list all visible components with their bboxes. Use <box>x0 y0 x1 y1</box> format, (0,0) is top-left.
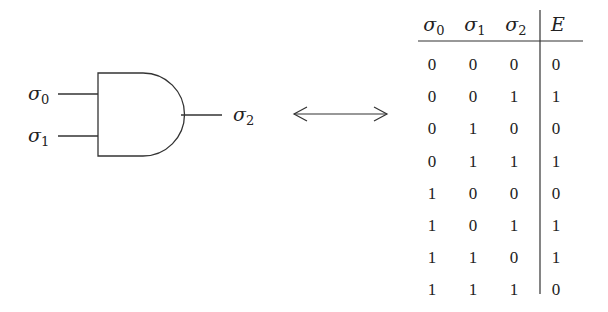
table-cell: 0 <box>417 87 447 107</box>
table-cell: 1 <box>417 280 447 300</box>
table-cell: 1 <box>499 216 529 236</box>
table-cell: 1 <box>541 216 571 236</box>
double-arrow-icon <box>294 107 387 121</box>
input-label-1: σ1 <box>28 124 49 149</box>
table-cell: 1 <box>417 248 447 268</box>
input-label-0: σ0 <box>28 82 49 107</box>
table-cell: 1 <box>458 152 488 172</box>
table-cell: 1 <box>458 248 488 268</box>
table-cell: 1 <box>499 280 529 300</box>
table-cell: 1 <box>499 87 529 107</box>
table-cell: 0 <box>541 119 571 139</box>
table-cell: 0 <box>458 184 488 204</box>
table-cell: 0 <box>417 152 447 172</box>
table-cell: 1 <box>417 184 447 204</box>
and-gate <box>58 73 222 156</box>
header-sigma1: σ1 <box>455 13 495 38</box>
table-cell: 0 <box>417 55 447 75</box>
table-cell: 1 <box>417 216 447 236</box>
table-cell: 0 <box>499 248 529 268</box>
header-sigma0: σ0 <box>414 13 454 38</box>
table-cell: 0 <box>499 119 529 139</box>
header-sigma2: σ2 <box>496 13 536 38</box>
table-cell: 1 <box>541 87 571 107</box>
table-cell: 1 <box>458 280 488 300</box>
table-cell: 1 <box>541 152 571 172</box>
header-e: E <box>538 13 578 35</box>
table-cell: 0 <box>541 184 571 204</box>
table-cell: 0 <box>458 216 488 236</box>
table-cell: 0 <box>417 119 447 139</box>
table-cell: 0 <box>541 55 571 75</box>
output-label: σ2 <box>233 103 254 128</box>
table-cell: 0 <box>458 55 488 75</box>
table-cell: 1 <box>541 248 571 268</box>
table-cell: 1 <box>458 119 488 139</box>
table-cell: 0 <box>499 55 529 75</box>
table-cell: 1 <box>499 152 529 172</box>
table-cell: 0 <box>541 280 571 300</box>
table-cell: 0 <box>458 87 488 107</box>
table-cell: 0 <box>499 184 529 204</box>
